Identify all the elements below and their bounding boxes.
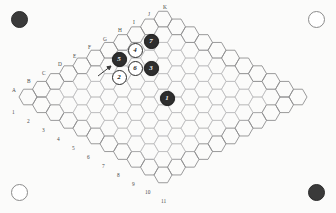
corner-marker-top-left <box>11 11 28 28</box>
hex-cell[interactable] <box>181 58 199 74</box>
hex-cell[interactable] <box>154 120 172 136</box>
corner-marker-top-right <box>308 11 325 28</box>
stone-2[interactable]: 2 <box>112 70 127 85</box>
stone-1-number: 1 <box>165 94 169 101</box>
hex-cell[interactable] <box>114 97 132 113</box>
column-label-j: J <box>148 12 150 17</box>
column-label-c: C <box>42 71 46 76</box>
column-label-b: B <box>27 79 31 84</box>
hex-cell[interactable] <box>289 89 307 105</box>
stone-3[interactable]: 3 <box>144 61 159 76</box>
stone-6[interactable]: 6 <box>128 61 143 76</box>
hex-cell[interactable] <box>154 136 172 152</box>
row-label-7: 7 <box>102 164 105 169</box>
hex-cell[interactable] <box>195 66 213 82</box>
hex-cell[interactable] <box>141 113 159 129</box>
stone-6-number: 6 <box>133 64 137 71</box>
stone-3-number: 3 <box>149 64 153 71</box>
column-label-k: K <box>163 5 167 10</box>
pointer-arrow-layer <box>98 66 111 76</box>
hex-cell[interactable] <box>235 89 253 105</box>
row-label-4: 4 <box>57 137 60 142</box>
hex-cell[interactable] <box>208 105 226 121</box>
stone-2-number: 2 <box>117 73 121 80</box>
row-label-5: 5 <box>72 146 75 151</box>
column-label-h: H <box>118 28 122 33</box>
hex-cell[interactable] <box>127 74 145 90</box>
hex-cell[interactable] <box>181 105 199 121</box>
hex-cell[interactable] <box>114 113 132 129</box>
column-label-e: E <box>73 54 76 59</box>
hex-cell[interactable] <box>181 120 199 136</box>
column-label-i: I <box>133 20 135 25</box>
stone-7[interactable]: 7 <box>144 34 159 49</box>
stone-1[interactable]: 1 <box>160 91 175 106</box>
row-label-2: 2 <box>27 119 30 124</box>
column-label-d: D <box>58 62 62 67</box>
row-label-3: 3 <box>42 128 45 133</box>
hex-cell[interactable] <box>222 97 240 113</box>
hex-cell[interactable] <box>154 105 172 121</box>
row-label-8: 8 <box>117 173 120 178</box>
stone-4-number: 4 <box>133 46 137 53</box>
hex-cell[interactable] <box>100 105 118 121</box>
hex-cell[interactable] <box>141 97 159 113</box>
column-label-a: A <box>12 88 16 93</box>
hex-cell[interactable] <box>87 81 105 97</box>
hex-cell[interactable] <box>100 89 118 105</box>
hex-cell[interactable] <box>195 97 213 113</box>
corner-marker-bottom-right <box>308 184 325 201</box>
corner-marker-bottom-left <box>11 184 28 201</box>
column-label-g: G <box>103 37 107 42</box>
hex-cell[interactable] <box>127 120 145 136</box>
stone-5-number: 5 <box>117 55 121 62</box>
hex-cell[interactable] <box>208 74 226 90</box>
hex-cell[interactable] <box>168 128 186 144</box>
hex-cell[interactable] <box>181 89 199 105</box>
row-label-10: 10 <box>145 190 150 195</box>
row-label-11: 11 <box>161 199 166 204</box>
hex-cell[interactable] <box>195 81 213 97</box>
column-label-f: F <box>88 45 91 50</box>
hex-cell[interactable] <box>154 74 172 90</box>
hex-cell[interactable] <box>168 50 186 66</box>
hex-cell[interactable] <box>127 105 145 121</box>
row-label-6: 6 <box>87 155 90 160</box>
row-label-1: 1 <box>12 110 15 115</box>
hex-cell[interactable] <box>181 74 199 90</box>
hex-cell[interactable] <box>141 81 159 97</box>
stone-7-number: 7 <box>149 37 153 44</box>
hex-cell[interactable] <box>168 113 186 129</box>
row-label-9: 9 <box>132 182 135 187</box>
hex-board-figure: ABCDEFGHIJK 1234567891011 1234567 <box>0 0 336 213</box>
hex-cell[interactable] <box>222 81 240 97</box>
hex-grid <box>0 0 336 213</box>
hex-cell[interactable] <box>168 66 186 82</box>
stone-5[interactable]: 5 <box>112 52 127 67</box>
stone-4[interactable]: 4 <box>128 43 143 58</box>
hex-cell[interactable] <box>195 113 213 129</box>
hex-cell[interactable] <box>73 89 91 105</box>
hex-cell[interactable] <box>127 89 145 105</box>
hex-cell[interactable] <box>87 97 105 113</box>
hex-cell[interactable] <box>141 128 159 144</box>
hex-cell[interactable] <box>208 89 226 105</box>
